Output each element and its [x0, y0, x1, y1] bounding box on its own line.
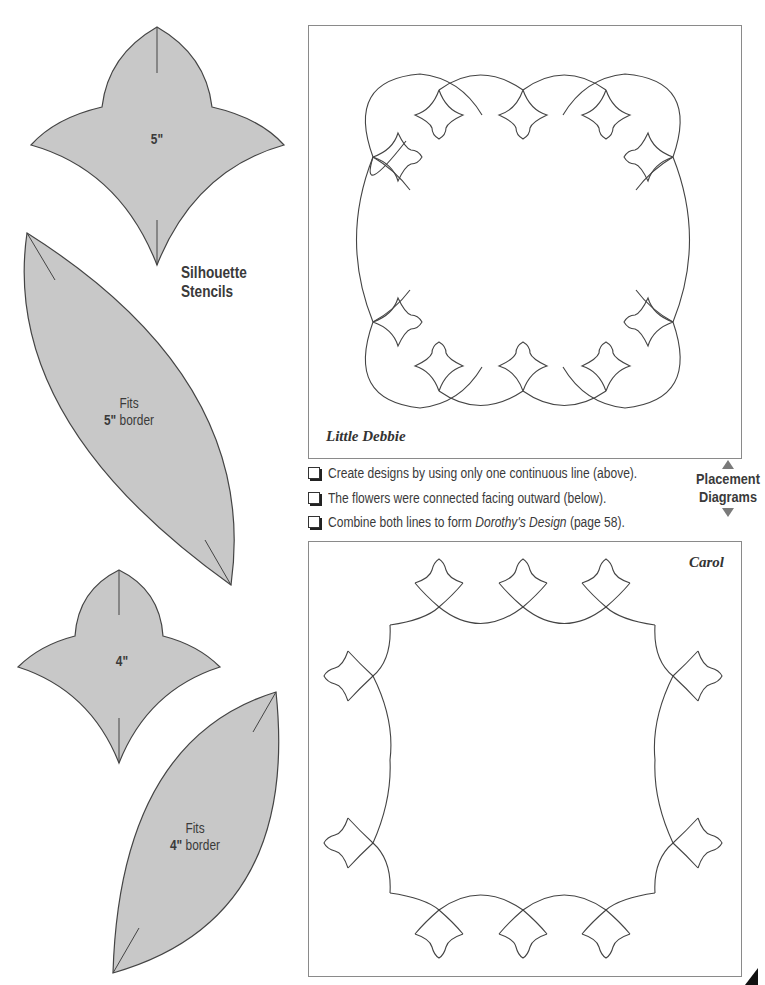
carol-flowers-bottom	[415, 934, 630, 958]
carol-flowers-left	[324, 651, 348, 868]
page-corner-mark	[745, 968, 758, 985]
carol-flowers-top	[415, 559, 630, 583]
carol-flowers-right	[698, 651, 722, 868]
